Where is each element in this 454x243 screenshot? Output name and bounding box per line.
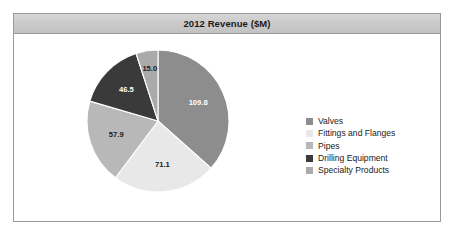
legend-item[interactable]: Pipes xyxy=(306,140,436,152)
legend-item[interactable]: Drilling Equipment xyxy=(306,152,436,164)
legend-swatch-icon xyxy=(306,167,313,174)
pie-slice-group xyxy=(87,50,229,192)
chart-title-bar: 2012 Revenue ($M) xyxy=(14,14,440,34)
legend-swatch-icon xyxy=(306,155,313,162)
legend-item-label: Drilling Equipment xyxy=(318,154,388,163)
legend-item-label: Valves xyxy=(318,117,343,126)
pie-chart-svg: 109.871.157.946.515.0 xyxy=(86,49,230,193)
chart-frame: 2012 Revenue ($M) 109.871.157.946.515.0 … xyxy=(13,13,441,222)
legend-swatch-icon xyxy=(306,142,313,149)
legend-item[interactable]: Specialty Products xyxy=(306,165,436,177)
pie-chart: 109.871.157.946.515.0 xyxy=(86,49,230,193)
chart-title: 2012 Revenue ($M) xyxy=(183,18,270,29)
chart-legend: ValvesFittings and FlangesPipesDrilling … xyxy=(306,115,436,177)
legend-item[interactable]: Fittings and Flanges xyxy=(306,127,436,139)
legend-swatch-icon xyxy=(306,118,313,125)
legend-item-label: Fittings and Flanges xyxy=(318,129,395,138)
legend-item[interactable]: Valves xyxy=(306,115,436,127)
legend-item-label: Specialty Products xyxy=(318,166,389,175)
legend-item-label: Pipes xyxy=(318,142,340,151)
plot-area: 109.871.157.946.515.0 ValvesFittings and… xyxy=(14,35,440,221)
legend-swatch-icon xyxy=(306,130,313,137)
